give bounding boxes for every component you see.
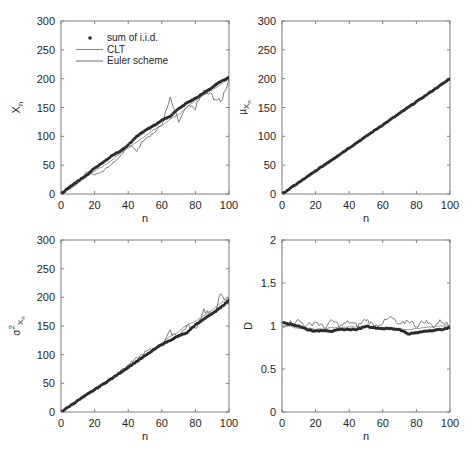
y-tick-label: 1 (270, 320, 276, 332)
y-tick-label: 0 (270, 406, 276, 418)
x-axis-label: n (142, 212, 148, 224)
x-axis-label: n (363, 212, 369, 224)
x-tick-label: 20 (309, 199, 321, 211)
x-tick-label: 20 (88, 417, 100, 429)
panel-bottom-left: 020406080100050100150200250300nσ2Xn (7, 234, 238, 442)
marker (227, 299, 230, 302)
panel-top-left: 020406080100050100150200250300nXnsum of … (10, 15, 238, 224)
legend-label: sum of i.i.d. (107, 32, 158, 43)
y-tick-label: 50 (43, 159, 55, 171)
x-tick-label: 100 (441, 199, 459, 211)
legend-label: CLT (107, 44, 125, 55)
y-tick-label: 150 (37, 320, 55, 332)
y-tick-label: 200 (37, 73, 55, 85)
legend-label: Euler scheme (107, 55, 169, 66)
panel-top-right: 020406080100050100150200250300nμXn (237, 15, 459, 224)
y-tick-label: 250 (258, 44, 276, 56)
x-tick-label: 20 (88, 199, 100, 211)
panel-bottom-right: 02040608010000.511.52nD (242, 234, 459, 442)
marker (448, 77, 451, 80)
y-axis-label: σ2Xn (7, 316, 26, 335)
x-tick-label: 20 (309, 417, 321, 429)
marker (227, 76, 230, 79)
x-tick-label: 40 (343, 417, 355, 429)
x-tick-label: 40 (343, 199, 355, 211)
x-tick-label: 80 (189, 199, 201, 211)
y-tick-label: 300 (37, 15, 55, 27)
x-tick-label: 60 (377, 417, 389, 429)
x-tick-label: 40 (122, 417, 134, 429)
y-tick-label: 150 (37, 102, 55, 114)
y-tick-label: 50 (43, 377, 55, 389)
chart-canvas: 020406080100050100150200250300nXnsum of … (0, 0, 474, 460)
x-tick-label: 0 (279, 417, 285, 429)
y-tick-label: 100 (37, 349, 55, 361)
y-tick-label: 300 (37, 234, 55, 246)
y-tick-label: 250 (37, 44, 55, 56)
marker (448, 326, 451, 329)
x-axis-label: n (363, 430, 369, 442)
axes-frame (282, 21, 450, 194)
x-tick-label: 60 (156, 417, 168, 429)
x-tick-label: 0 (58, 417, 64, 429)
y-tick-label: 0 (49, 188, 55, 200)
x-tick-label: 100 (220, 417, 238, 429)
x-tick-label: 80 (410, 417, 422, 429)
y-tick-label: 50 (264, 159, 276, 171)
x-tick-label: 100 (441, 417, 459, 429)
x-axis-label: n (142, 430, 148, 442)
x-tick-label: 80 (189, 417, 201, 429)
y-tick-label: 0 (49, 406, 55, 418)
y-axis-label: μXn (237, 100, 252, 114)
y-tick-label: 300 (258, 15, 276, 27)
y-tick-label: 100 (37, 130, 55, 142)
x-tick-label: 60 (156, 199, 168, 211)
x-tick-label: 100 (220, 199, 238, 211)
y-tick-label: 100 (258, 130, 276, 142)
y-tick-label: 150 (258, 102, 276, 114)
figure: 020406080100050100150200250300nXnsum of … (0, 0, 474, 460)
y-axis-label: D (242, 322, 254, 330)
y-tick-label: 0 (270, 188, 276, 200)
x-tick-label: 0 (58, 199, 64, 211)
legend-dot-icon (88, 36, 92, 40)
axes-frame (61, 21, 229, 194)
y-tick-label: 250 (37, 263, 55, 275)
y-tick-label: 200 (258, 73, 276, 85)
x-tick-label: 80 (410, 199, 422, 211)
y-tick-label: 2 (270, 234, 276, 246)
y-axis-label: Xn (10, 102, 25, 114)
x-tick-label: 0 (279, 199, 285, 211)
y-tick-label: 200 (37, 291, 55, 303)
x-tick-label: 40 (122, 199, 134, 211)
x-tick-label: 60 (377, 199, 389, 211)
y-tick-label: 1.5 (261, 277, 276, 289)
axes-frame (61, 240, 229, 412)
y-tick-label: 0.5 (261, 363, 276, 375)
